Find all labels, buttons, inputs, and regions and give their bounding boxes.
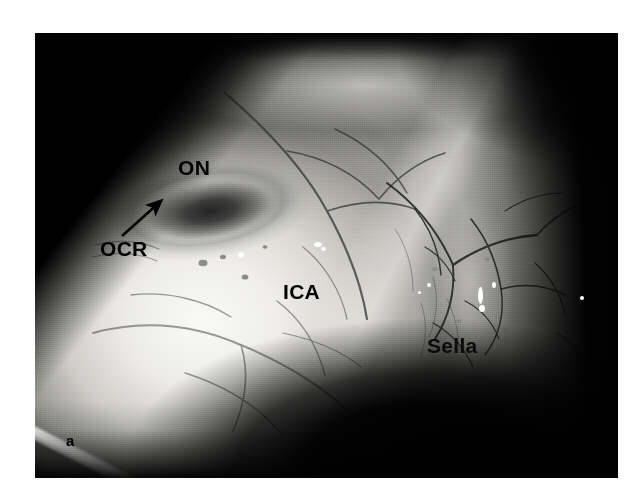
- specular-highlight: [580, 296, 584, 300]
- specular-highlight: [238, 252, 244, 258]
- figure-root: ON OCR ICA Sella a: [0, 0, 643, 504]
- specular-highlight: [479, 305, 485, 312]
- specular-highlight: [314, 242, 322, 247]
- specular-highlight: [427, 283, 431, 287]
- label-sella: Sella: [427, 335, 478, 356]
- panel-letter: a: [66, 432, 74, 449]
- specular-highlight: [492, 282, 496, 288]
- label-ocr: OCR: [100, 238, 148, 259]
- label-ica: ICA: [283, 281, 320, 302]
- specular-highlight: [321, 247, 326, 251]
- label-on: ON: [178, 157, 210, 178]
- specular-highlight: [418, 291, 421, 294]
- specular-highlight: [478, 287, 483, 304]
